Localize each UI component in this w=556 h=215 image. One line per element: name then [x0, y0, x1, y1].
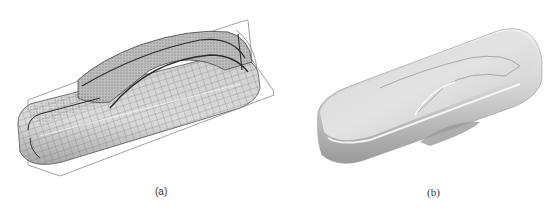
shaded-car-image — [280, 0, 556, 185]
panel-a-label: (a) — [155, 186, 167, 197]
panel-b-label: (b) — [427, 186, 440, 198]
figure-panel-a: (a) — [0, 0, 280, 215]
wireframe-car-image — [0, 0, 280, 185]
figure-panel-b: (b) — [280, 0, 556, 215]
